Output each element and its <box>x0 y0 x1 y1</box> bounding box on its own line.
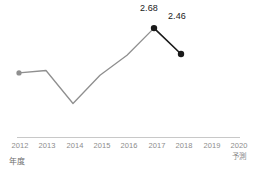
data-point-marker-2012 <box>16 70 21 75</box>
data-label-2017: 2.68 <box>140 4 158 13</box>
data-label-2018: 2.46 <box>168 12 186 21</box>
x-axis-title: 年度 <box>9 158 25 166</box>
x-tick-label-2016: 2016 <box>117 142 141 150</box>
data-point-marker-2017 <box>151 25 157 31</box>
x-tick-label-2014: 2014 <box>63 142 87 150</box>
series-line-recent <box>154 28 181 54</box>
forecast-annotation: 予測 <box>227 153 251 161</box>
line-chart: 2.68 2.46 2012 2013 2014 2015 2016 2017 … <box>0 0 259 170</box>
data-point-marker-2018 <box>178 51 184 57</box>
x-tick-label-2020: 2020 <box>227 142 251 150</box>
series-line-historical <box>19 28 154 103</box>
x-tick-label-2013: 2013 <box>35 142 59 150</box>
x-tick-label-2019: 2019 <box>200 142 224 150</box>
x-tick-label-2012: 2012 <box>8 142 32 150</box>
x-tick-label-2015: 2015 <box>90 142 114 150</box>
x-tick-label-2017: 2017 <box>145 142 169 150</box>
x-tick-label-2018: 2018 <box>172 142 196 150</box>
